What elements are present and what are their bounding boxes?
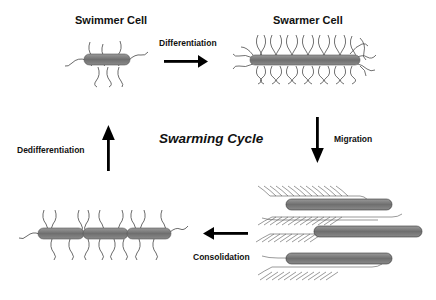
swarmer-cell-illustration bbox=[233, 35, 376, 84]
dedifferentiation-arrow-icon bbox=[102, 125, 115, 171]
differentiation-label: Differentiation bbox=[159, 38, 217, 48]
swarming-cycle-title: Swarming Cycle bbox=[159, 131, 263, 146]
migration-label: Migration bbox=[334, 134, 372, 144]
consolidation-arrow-icon bbox=[203, 227, 248, 240]
migrating-swarm-illustration bbox=[256, 186, 422, 280]
consolidation-label: Consolidation bbox=[193, 252, 250, 262]
migration-arrow-icon bbox=[311, 117, 324, 163]
differentiation-arrow-icon bbox=[164, 55, 208, 68]
dedifferentiation-label: Dedifferentiation bbox=[17, 145, 85, 155]
swimmer-cell-illustration bbox=[65, 41, 148, 87]
swimmer-cell-title: Swimmer Cell bbox=[75, 14, 147, 26]
swarmer-cell-title: Swarmer Cell bbox=[273, 14, 343, 26]
consolidated-cell-chain-illustration bbox=[19, 210, 188, 260]
